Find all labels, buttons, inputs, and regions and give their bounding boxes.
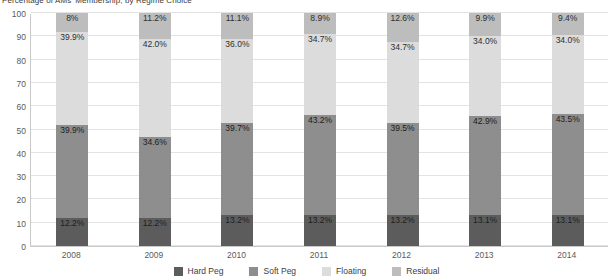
bar-group[interactable]: 13.2%39.7%36.0%11.1% bbox=[221, 13, 253, 246]
bar-segment[interactable]: 13.1% bbox=[469, 215, 501, 246]
legend-item[interactable]: Residual bbox=[392, 266, 439, 276]
y-axis-tick-label: 80 bbox=[0, 56, 26, 65]
bar-segment-value-label: 34.0% bbox=[469, 37, 501, 46]
legend-item[interactable]: Soft Peg bbox=[249, 266, 296, 276]
bar-segment-value-label: 43.2% bbox=[304, 116, 336, 125]
bar-segment[interactable]: 36.0% bbox=[221, 39, 253, 123]
bar-segment[interactable]: 42.0% bbox=[139, 39, 171, 137]
bar-segment-value-label: 42.9% bbox=[469, 117, 501, 126]
bar-group[interactable]: 12.2%34.6%42.0%11.2% bbox=[139, 13, 171, 246]
legend-item-label: Soft Peg bbox=[263, 266, 296, 276]
x-axis-tick-label: 2014 bbox=[557, 250, 576, 260]
bar-segment-value-label: 34.7% bbox=[304, 35, 336, 44]
y-axis-tick-label: 10 bbox=[0, 219, 26, 228]
bar-segment[interactable]: 12.2% bbox=[56, 218, 88, 246]
bar-group[interactable]: 13.1%43.5%34.0%9.4% bbox=[552, 13, 584, 246]
bar-segment-value-label: 39.9% bbox=[56, 33, 88, 42]
bar-segment[interactable]: 13.2% bbox=[387, 215, 419, 246]
bar-segment-value-label: 9.9% bbox=[469, 14, 501, 23]
bar-segment[interactable]: 34.7% bbox=[387, 42, 419, 123]
bar-segment-value-label: 13.2% bbox=[221, 216, 253, 225]
x-axis-tick-label: 2010 bbox=[227, 250, 246, 260]
bar-segment-value-label: 42.0% bbox=[139, 40, 171, 49]
bar-segment[interactable]: 34.0% bbox=[469, 36, 501, 115]
bar-segment-value-label: 12.2% bbox=[56, 219, 88, 228]
legend-item-label: Residual bbox=[406, 266, 439, 276]
bar-segment-value-label: 8.9% bbox=[304, 14, 336, 23]
bar-segment-value-label: 9.4% bbox=[552, 14, 584, 23]
bar-segment-value-label: 36.0% bbox=[221, 40, 253, 49]
bar-segment[interactable]: 42.9% bbox=[469, 116, 501, 216]
plot-area: 12.2%39.9%39.9%8%12.2%34.6%42.0%11.2%13.… bbox=[30, 14, 608, 247]
bar-segment-value-label: 13.1% bbox=[552, 216, 584, 225]
bar-segment[interactable]: 8.9% bbox=[304, 13, 336, 34]
bar-group[interactable]: 12.2%39.9%39.9%8% bbox=[56, 13, 88, 246]
legend-item[interactable]: Floating bbox=[322, 266, 366, 276]
bar-segment[interactable]: 11.2% bbox=[139, 13, 171, 39]
y-axis-tick-label: 60 bbox=[0, 103, 26, 112]
bar-segment[interactable]: 34.7% bbox=[304, 34, 336, 115]
bar-segment-value-label: 11.2% bbox=[139, 14, 171, 23]
y-axis-tick-label: 90 bbox=[0, 33, 26, 42]
x-axis-tick-label: 2012 bbox=[392, 250, 411, 260]
y-axis-tick-label: 0 bbox=[0, 243, 26, 252]
x-axis-tick-label: 2011 bbox=[310, 250, 328, 260]
bar-group[interactable]: 13.2%39.5%34.7%12.6% bbox=[387, 13, 419, 246]
chart-legend: Hard PegSoft PegFloatingResidual bbox=[0, 264, 613, 278]
y-axis-tick-label: 50 bbox=[0, 126, 26, 135]
bar-segment-value-label: 34.7% bbox=[387, 43, 419, 52]
bar-segment[interactable]: 39.7% bbox=[221, 123, 253, 216]
bar-segment[interactable]: 13.2% bbox=[304, 215, 336, 246]
bar-segment[interactable]: 8% bbox=[56, 13, 88, 32]
x-axis-tick-label: 2009 bbox=[144, 250, 163, 260]
bar-segment[interactable]: 34.0% bbox=[552, 35, 584, 114]
bar-segment-value-label: 13.1% bbox=[469, 216, 501, 225]
y-axis-tick-label: 70 bbox=[0, 80, 26, 89]
bar-segment[interactable]: 13.1% bbox=[552, 215, 584, 246]
legend-item-label: Hard Peg bbox=[188, 266, 224, 276]
bar-segment-value-label: 12.6% bbox=[387, 14, 419, 23]
legend-item-label: Floating bbox=[336, 266, 366, 276]
bar-segment[interactable]: 39.9% bbox=[56, 125, 88, 218]
x-axis-tick-label: 2013 bbox=[475, 250, 494, 260]
bar-segment-value-label: 12.2% bbox=[139, 219, 171, 228]
bar-segment-value-label: 39.7% bbox=[221, 124, 253, 133]
bar-segment-value-label: 34.6% bbox=[139, 138, 171, 147]
y-axis: 0102030405060708090100 bbox=[0, 14, 26, 247]
bar-segment-value-label: 13.2% bbox=[304, 216, 336, 225]
legend-swatch-icon bbox=[392, 267, 401, 276]
bar-segment[interactable]: 39.5% bbox=[387, 123, 419, 215]
y-axis-tick-label: 20 bbox=[0, 196, 26, 205]
bar-group[interactable]: 13.1%42.9%34.0%9.9% bbox=[469, 13, 501, 246]
legend-item[interactable]: Hard Peg bbox=[174, 266, 224, 276]
y-axis-tick-label: 30 bbox=[0, 173, 26, 182]
y-axis-tick-label: 100 bbox=[0, 10, 26, 19]
bar-segment-value-label: 39.9% bbox=[56, 126, 88, 135]
chart-container: Percentage of AMs' Membership, by Regime… bbox=[0, 0, 613, 280]
bar-segment[interactable]: 12.2% bbox=[139, 218, 171, 246]
bar-segment-value-label: 43.5% bbox=[552, 115, 584, 124]
bar-segment[interactable]: 9.4% bbox=[552, 13, 584, 35]
legend-swatch-icon bbox=[174, 267, 183, 276]
bar-segment[interactable]: 43.2% bbox=[304, 115, 336, 216]
bar-segment-value-label: 11.1% bbox=[221, 14, 253, 23]
bar-segment[interactable]: 12.6% bbox=[387, 13, 419, 42]
legend-swatch-icon bbox=[249, 267, 258, 276]
y-axis-tick-label: 40 bbox=[0, 150, 26, 159]
bar-segment[interactable]: 43.5% bbox=[552, 114, 584, 215]
bar-segment-value-label: 13.2% bbox=[387, 216, 419, 225]
legend-swatch-icon bbox=[322, 267, 331, 276]
bar-segment-value-label: 34.0% bbox=[552, 36, 584, 45]
bar-segment[interactable]: 9.9% bbox=[469, 13, 501, 36]
bar-segment[interactable]: 39.9% bbox=[56, 32, 88, 125]
chart-title: Percentage of AMs' Membership, by Regime… bbox=[2, 0, 192, 5]
bar-segment[interactable]: 13.2% bbox=[221, 215, 253, 246]
bar-segment[interactable]: 34.6% bbox=[139, 137, 171, 218]
bar-segment-value-label: 39.5% bbox=[387, 124, 419, 133]
x-axis-tick-label: 2008 bbox=[62, 250, 81, 260]
x-axis: 2008200920102011201220132014 bbox=[30, 250, 608, 264]
bar-segment[interactable]: 11.1% bbox=[221, 13, 253, 39]
bar-segment-value-label: 8% bbox=[56, 14, 88, 23]
bar-group[interactable]: 13.2%43.2%34.7%8.9% bbox=[304, 13, 336, 246]
